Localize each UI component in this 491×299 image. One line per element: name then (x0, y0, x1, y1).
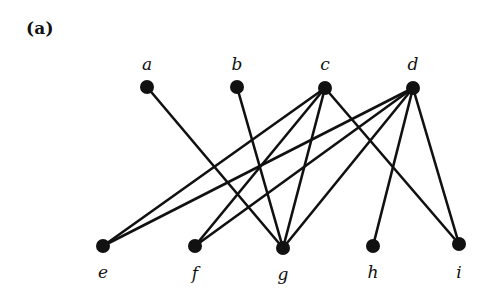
graph-vertex-h (366, 239, 380, 253)
graph-vertex-g (276, 241, 290, 255)
vertex-label-c: c (320, 54, 330, 74)
bipartite-graph-svg (0, 0, 491, 299)
vertex-label-f: f (192, 263, 198, 283)
vertex-label-h: h (368, 262, 379, 282)
graph-edge-d-i (413, 88, 459, 244)
vertex-label-g: g (278, 264, 289, 284)
figure-panel: (a) abcdefghi (0, 0, 491, 299)
graph-vertex-b (230, 80, 244, 94)
graph-vertex-f (188, 239, 202, 253)
graph-vertex-e (96, 239, 110, 253)
vertex-layer (96, 80, 466, 255)
vertex-label-a: a (142, 54, 152, 74)
graph-vertex-a (140, 80, 154, 94)
vertex-label-b: b (232, 54, 243, 74)
graph-vertex-d (406, 81, 420, 95)
graph-vertex-i (452, 237, 466, 251)
graph-edge-d-e (103, 88, 413, 246)
vertex-label-d: d (408, 54, 419, 74)
edge-layer (103, 87, 459, 248)
vertex-label-i: i (456, 262, 461, 282)
graph-vertex-c (318, 81, 332, 95)
vertex-label-e: e (98, 262, 108, 282)
